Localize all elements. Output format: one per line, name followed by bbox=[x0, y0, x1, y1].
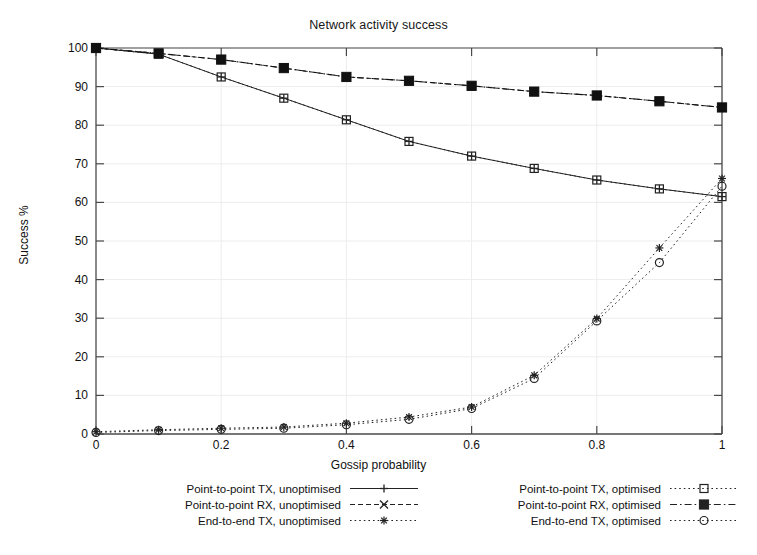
y-axis-tick-labels: 0102030405060708090100 bbox=[44, 48, 88, 434]
data-point-marker bbox=[592, 91, 601, 100]
y-tick-label: 70 bbox=[48, 157, 88, 171]
marker-circle-open bbox=[700, 517, 708, 525]
marker-square-filled bbox=[530, 87, 539, 96]
data-point-marker bbox=[717, 103, 726, 112]
gridlines bbox=[96, 48, 722, 434]
y-tick-label: 50 bbox=[48, 234, 88, 248]
y-tick-label: 30 bbox=[48, 311, 88, 325]
legend-item[interactable]: End-to-end TX, optimised bbox=[420, 513, 740, 528]
marker-square-filled bbox=[217, 55, 226, 64]
marker-square-filled bbox=[699, 500, 708, 509]
marker-square-filled bbox=[592, 91, 601, 100]
marker-square-filled bbox=[279, 63, 288, 72]
data-point-marker bbox=[467, 81, 476, 90]
marker-square-filled bbox=[467, 81, 476, 90]
data-point-marker bbox=[280, 94, 288, 102]
x-tick-label: 0.4 bbox=[316, 438, 376, 452]
legend-key-square-filled bbox=[668, 497, 740, 512]
data-point-marker bbox=[655, 244, 663, 252]
legend-key-glyph bbox=[668, 481, 740, 496]
legend-item[interactable]: End-to-end TX, unoptimised bbox=[100, 513, 420, 528]
legend-key-glyph bbox=[668, 497, 740, 512]
data-point-marker bbox=[655, 97, 664, 106]
series-line bbox=[96, 178, 722, 431]
x-tick-label: 0.2 bbox=[191, 438, 251, 452]
data-point-marker bbox=[530, 87, 539, 96]
x-tick-label: 0.8 bbox=[567, 438, 627, 452]
legend-item[interactable]: Point-to-point RX, optimised bbox=[420, 497, 740, 512]
legend-key-circle-open bbox=[668, 513, 740, 528]
legend-key-cross bbox=[348, 497, 420, 512]
y-axis-title: Success % bbox=[17, 190, 31, 280]
y-tick-label: 60 bbox=[48, 195, 88, 209]
legend-key-star bbox=[348, 513, 420, 528]
legend-key-square-open bbox=[668, 481, 740, 496]
data-point-marker bbox=[699, 500, 708, 509]
series-line bbox=[96, 48, 722, 197]
data-point-marker bbox=[718, 174, 726, 182]
legend-column-optimised: Point-to-point TX, optimisedPoint-to-poi… bbox=[420, 481, 740, 529]
series-3 bbox=[92, 174, 726, 435]
marker-square-filled bbox=[655, 97, 664, 106]
legend-item-label: Point-to-point RX, optimised bbox=[518, 499, 661, 511]
legend-key-glyph bbox=[348, 497, 420, 512]
legend-item-label: End-to-end TX, optimised bbox=[531, 515, 661, 527]
x-tick-label: 0 bbox=[66, 438, 126, 452]
marker-square-filled bbox=[404, 76, 413, 85]
legend-item-label: Point-to-point TX, optimised bbox=[519, 483, 661, 495]
data-point-marker bbox=[380, 485, 388, 493]
y-tick-label: 20 bbox=[48, 350, 88, 364]
data-point-marker bbox=[404, 76, 413, 85]
x-tick-label: 1 bbox=[692, 438, 752, 452]
legend-item[interactable]: Point-to-point TX, optimised bbox=[420, 481, 740, 496]
data-point-marker bbox=[217, 55, 226, 64]
legend-key-glyph bbox=[348, 513, 420, 528]
legend: Point-to-point TX, unoptimisedPoint-to-p… bbox=[0, 481, 757, 531]
chart-root: Network activity success Success % 01020… bbox=[0, 0, 757, 555]
series-1 bbox=[92, 44, 726, 201]
data-point-marker bbox=[380, 517, 388, 525]
legend-item[interactable]: Point-to-point TX, unoptimised bbox=[100, 481, 420, 496]
data-point-marker bbox=[91, 43, 100, 52]
chart-title: Network activity success bbox=[0, 18, 757, 32]
data-point-marker bbox=[700, 517, 708, 525]
legend-key-glyph bbox=[348, 481, 420, 496]
legend-column-unoptimised: Point-to-point TX, unoptimisedPoint-to-p… bbox=[100, 481, 420, 529]
marker-square-filled bbox=[91, 43, 100, 52]
marker-square-filled bbox=[154, 49, 163, 58]
legend-item[interactable]: Point-to-point RX, unoptimised bbox=[100, 497, 420, 512]
legend-key-glyph bbox=[668, 513, 740, 528]
x-tick-label: 0.6 bbox=[442, 438, 502, 452]
series-line bbox=[96, 48, 722, 197]
legend-item-label: End-to-end TX, unoptimised bbox=[198, 515, 341, 527]
y-tick-label: 90 bbox=[48, 80, 88, 94]
series-4 bbox=[92, 44, 726, 201]
plot-area bbox=[96, 48, 722, 434]
data-point-marker bbox=[154, 49, 163, 58]
legend-key-plus bbox=[348, 481, 420, 496]
series-5 bbox=[91, 43, 726, 112]
series-6 bbox=[92, 182, 726, 436]
plot-canvas bbox=[96, 48, 722, 434]
data-point-marker bbox=[700, 485, 708, 493]
y-tick-label: 10 bbox=[48, 388, 88, 402]
x-axis-tick-labels: 00.20.40.60.81 bbox=[96, 438, 722, 460]
legend-item-label: Point-to-point RX, unoptimised bbox=[185, 499, 341, 511]
data-point-marker bbox=[718, 193, 726, 201]
marker-square-filled bbox=[717, 103, 726, 112]
x-axis-title: Gossip probability bbox=[0, 458, 757, 472]
y-tick-label: 80 bbox=[48, 118, 88, 132]
data-point-marker bbox=[279, 63, 288, 72]
marker-square-open bbox=[700, 485, 708, 493]
data-point-marker bbox=[342, 116, 350, 124]
y-tick-label: 100 bbox=[48, 41, 88, 55]
y-tick-label: 40 bbox=[48, 273, 88, 287]
data-point-marker bbox=[342, 72, 351, 81]
marker-square-filled bbox=[342, 72, 351, 81]
legend-item-label: Point-to-point TX, unoptimised bbox=[187, 483, 341, 495]
